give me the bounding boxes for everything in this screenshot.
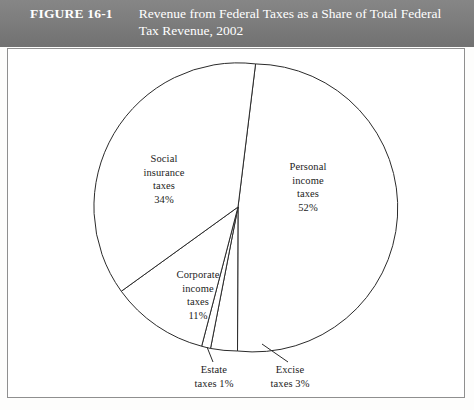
pie-label-corporate-income-taxes: Corporate income taxes 11%	[152, 268, 244, 322]
pie-chart	[0, 0, 474, 410]
pie-label-estate-taxes: Estate taxes 1%	[178, 363, 250, 390]
pie-label-personal-income-taxes: Personal income taxes 52%	[262, 160, 354, 214]
pie-label-social-insurance-taxes: Social insurance taxes 34%	[118, 152, 210, 206]
pie-label-excise-taxes: Excise taxes 3%	[254, 363, 326, 390]
figure-container: FIGURE 16-1 Revenue from Federal Taxes a…	[0, 0, 474, 410]
leader-line-estate-taxes	[207, 347, 213, 362]
